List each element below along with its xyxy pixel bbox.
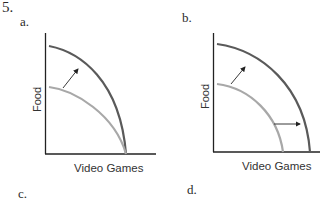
- outer-ppf-curve: [49, 46, 126, 154]
- inner-ppf-curve: [217, 84, 283, 152]
- panel-b-ylabel: Food: [199, 84, 211, 109]
- ppf-diagrams: [0, 0, 320, 203]
- arrow-icon: [63, 69, 78, 88]
- outer-ppf-curve: [217, 44, 310, 152]
- arrow-icon: [231, 67, 245, 84]
- chart-b: [213, 33, 320, 152]
- panel-a-xlabel: Video Games: [74, 162, 143, 174]
- panel-b-xlabel: Video Games: [242, 160, 311, 172]
- inner-ppf-curve: [49, 87, 126, 154]
- panel-a-ylabel: Food: [31, 87, 43, 112]
- chart-a: [45, 33, 156, 154]
